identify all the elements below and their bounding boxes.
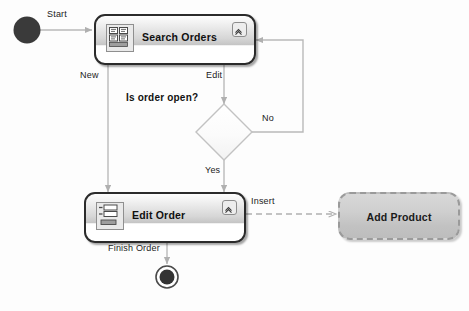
node-edit-order-label: Edit Order [132, 209, 185, 221]
end-node [156, 266, 178, 288]
collapse-chevron-icon[interactable] [222, 200, 237, 215]
node-search-orders[interactable]: Search Orders [94, 14, 256, 65]
edge-label-insert: Insert [251, 196, 275, 206]
node-add-product[interactable]: Add Product [338, 192, 460, 240]
node-search-orders-label: Search Orders [142, 31, 217, 43]
activity-diagram-canvas: Search Orders Edit Order [0, 0, 469, 311]
edge-label-yes: Yes [205, 165, 220, 175]
node-add-product-label: Add Product [340, 211, 458, 223]
edge-label-new: New [80, 70, 99, 80]
decision-question-label: Is order open? [126, 92, 198, 103]
node-edit-order[interactable]: Edit Order [84, 192, 246, 243]
edge-label-start: Start [47, 9, 67, 19]
edge-label-finish-order: Finish Order [108, 243, 160, 253]
decision-diamond [196, 104, 252, 160]
form-fields-icon [96, 202, 124, 230]
start-node [14, 17, 41, 44]
collapse-chevron-icon[interactable] [232, 22, 247, 37]
edge-label-edit: Edit [206, 70, 222, 80]
edge-decision-no-to-search [252, 40, 303, 132]
search-results-grid-icon [106, 24, 134, 52]
edge-label-no: No [262, 113, 274, 123]
